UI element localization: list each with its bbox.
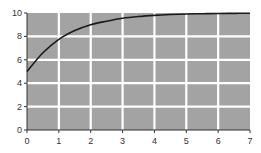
x-tick-label: 2 (88, 136, 93, 146)
x-tick-label: 3 (120, 136, 125, 146)
line-chart: 01234567 0246810 (0, 0, 261, 153)
y-tick-label: 8 (17, 31, 22, 41)
y-axis-tick-labels: 0246810 (12, 8, 22, 135)
plot-area (27, 13, 250, 130)
x-tick-label: 0 (24, 136, 29, 146)
x-tick-label: 7 (247, 136, 252, 146)
y-tick-label: 4 (17, 78, 22, 88)
x-axis-tick-labels: 01234567 (24, 136, 252, 146)
x-tick-label: 6 (216, 136, 221, 146)
y-tick-label: 0 (17, 125, 22, 135)
x-tick-label: 5 (184, 136, 189, 146)
x-tick-label: 4 (152, 136, 157, 146)
y-tick-label: 6 (17, 55, 22, 65)
y-tick-label: 10 (12, 8, 22, 18)
y-tick-label: 2 (17, 102, 22, 112)
x-tick-label: 1 (56, 136, 61, 146)
